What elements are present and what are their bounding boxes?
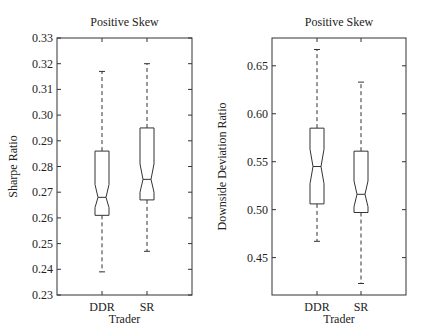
y-tick-label: 0.29 [32,134,53,148]
box-sr [140,64,154,252]
y-tick-label: 0.31 [32,82,53,96]
y-tick-label: 0.28 [32,160,53,174]
y-tick-label: 0.32 [32,57,53,71]
plot-frame [57,38,192,295]
downside-deviation-chart: Positive Skew0.450.500.550.600.65Downsid… [215,15,406,326]
y-tick-label: 0.65 [247,59,268,73]
sharpe-ratio-chart: Positive Skew0.230.240.250.260.270.280.2… [6,15,192,326]
chart-title: Positive Skew [305,15,374,29]
plot-frame [272,38,406,295]
box-sr [354,82,368,283]
x-axis-label: Trader [109,312,141,326]
x-axis-label: Trader [323,312,355,326]
x-tick-label: SR [354,300,369,314]
y-tick-label: 0.27 [32,185,53,199]
notched-box [140,128,154,200]
y-tick-label: 0.23 [32,288,53,302]
notched-box [95,151,109,215]
y-tick-label: 0.50 [247,203,268,217]
chart-title: Positive Skew [90,15,159,29]
figure: Positive Skew0.230.240.250.260.270.280.2… [0,0,423,336]
x-tick-label: SR [140,300,155,314]
y-tick-label: 0.26 [32,211,53,225]
y-tick-label: 0.55 [247,155,268,169]
y-tick-label: 0.30 [32,108,53,122]
y-tick-label: 0.25 [32,237,53,251]
y-tick-label: 0.33 [32,31,53,45]
box-ddr [310,50,324,242]
y-tick-label: 0.60 [247,107,268,121]
box-ddr [95,71,109,271]
y-tick-label: 0.24 [32,262,53,276]
y-axis-label: Downside Deviation Ratio [215,103,229,231]
y-axis-label: Sharpe Ratio [6,135,20,197]
notched-box [354,151,368,212]
y-tick-label: 0.45 [247,251,268,265]
